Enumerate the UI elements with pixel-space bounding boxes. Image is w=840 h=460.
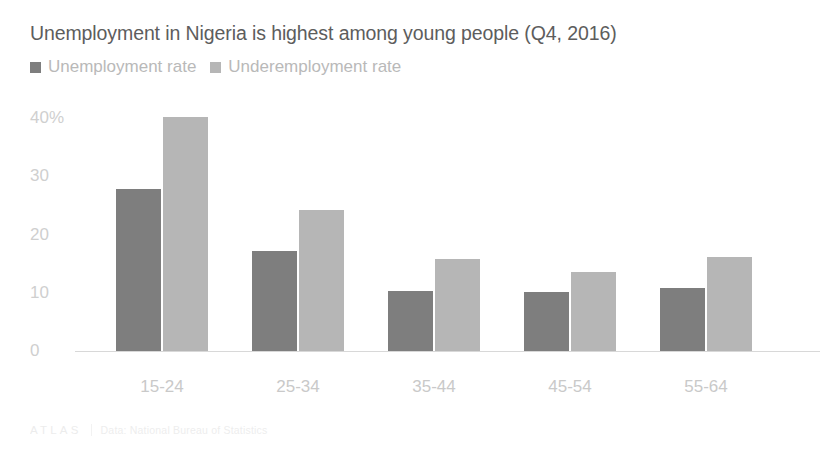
atlas-logo: ATLAS bbox=[30, 424, 82, 436]
x-axis-label: 25-34 bbox=[228, 376, 368, 398]
x-axis-labels: 15-2425-3435-4445-5455-64 bbox=[0, 376, 840, 402]
footer-divider bbox=[91, 424, 92, 436]
bar-group bbox=[252, 100, 344, 351]
bar-group bbox=[660, 100, 752, 351]
x-axis-label: 45-54 bbox=[500, 376, 640, 398]
bar[interactable] bbox=[388, 291, 433, 351]
bar-group bbox=[116, 100, 208, 351]
legend-swatch-unemployment-rate bbox=[30, 62, 41, 73]
chart-title: Unemployment in Nigeria is highest among… bbox=[30, 20, 820, 46]
bar[interactable] bbox=[252, 251, 297, 351]
chart-legend: Unemployment rate Underemployment rate bbox=[30, 57, 401, 77]
plot-area: 40% 30 20 10 0 bbox=[0, 100, 840, 360]
bar[interactable] bbox=[435, 259, 480, 351]
bar-group bbox=[388, 100, 480, 351]
bar[interactable] bbox=[299, 210, 344, 351]
legend-item-unemployment-rate[interactable]: Unemployment rate bbox=[30, 57, 196, 77]
x-axis-label: 55-64 bbox=[636, 376, 776, 398]
chart-card: Unemployment in Nigeria is highest among… bbox=[0, 0, 840, 460]
legend-swatch-underemployment-rate bbox=[210, 62, 221, 73]
legend-label-unemployment-rate: Unemployment rate bbox=[48, 57, 196, 77]
legend-label-underemployment-rate: Underemployment rate bbox=[228, 57, 401, 77]
bar[interactable] bbox=[163, 117, 208, 351]
bar-group bbox=[524, 100, 616, 351]
x-axis-label: 35-44 bbox=[364, 376, 504, 398]
chart-footer: ATLAS Data: National Bureau of Statistic… bbox=[30, 424, 268, 436]
x-axis-label: 15-24 bbox=[92, 376, 232, 398]
bar[interactable] bbox=[660, 288, 705, 351]
bar[interactable] bbox=[524, 292, 569, 351]
bars-layer bbox=[0, 100, 840, 360]
footer-source-label: Data: National Bureau of Statistics bbox=[101, 424, 268, 436]
bar[interactable] bbox=[116, 189, 161, 351]
bar[interactable] bbox=[707, 257, 752, 351]
legend-item-underemployment-rate[interactable]: Underemployment rate bbox=[210, 57, 401, 77]
bar[interactable] bbox=[571, 272, 616, 351]
